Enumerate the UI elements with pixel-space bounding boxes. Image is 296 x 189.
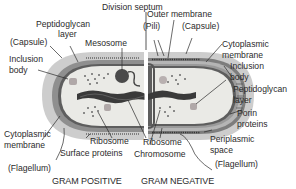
label-gn-pili: (Pili) [143, 21, 160, 31]
label-gn-cytoplasmic: Cytoplasmic [222, 39, 269, 49]
label-gp-mesosome: Mesosome [85, 38, 127, 48]
gram-positive-cell [42, 52, 146, 140]
label-gn-capsule: (Capsule) [182, 21, 219, 31]
label-gn-inclusion-body: body [230, 72, 249, 82]
label-gn-chromosome: Chromosome [134, 149, 186, 159]
label-gn-inclusion: Inclusion [230, 61, 264, 71]
label-gn-outer-membrane: Outer membrane [147, 9, 212, 19]
mesosome [115, 69, 129, 83]
label-gp-flagellum: (Flagellum) [8, 163, 51, 173]
label-gp-cytoplasmic-membrane: membrane [4, 140, 45, 150]
label-gp-cytoplasmic: Cytoplasmic [4, 129, 51, 139]
gp-inclusion-body [69, 78, 77, 85]
caption-gram-negative: GRAM NEGATIVE [141, 176, 214, 186]
label-gp-surface-proteins: Surface proteins [60, 148, 123, 158]
label-gp-peptidoglycan: Peptidoglycan [36, 19, 90, 29]
label-gn-peptidoglycan: Peptidoglycan [233, 84, 287, 94]
label-gp-inclusion: Inclusion [9, 54, 43, 64]
label-gn-periplasmic: Periplasmic [210, 134, 254, 144]
label-gn-porin: Porin [237, 108, 257, 118]
label-gn-periplasmic-space: space [210, 145, 233, 155]
label-gp-peptidoglycan-layer: layer [58, 29, 77, 39]
label-gn-ribosome: Ribosome [143, 137, 182, 147]
label-gp-ribosome: Ribosome [90, 136, 129, 146]
gn-inclusion-body [190, 103, 197, 110]
label-gp-capsule: (Capsule) [10, 37, 47, 47]
label-gn-porin-proteins: proteins [237, 119, 268, 129]
label-gn-flagellum: (Flagellum) [215, 159, 258, 169]
label-gn-peptidoglycan-layer: layer [233, 95, 252, 105]
label-gp-inclusion-body: body [9, 65, 28, 75]
label-gn-cytoplasmic-membrane: membrane [222, 50, 263, 60]
caption-gram-positive: GRAM POSITIVE [52, 176, 122, 186]
